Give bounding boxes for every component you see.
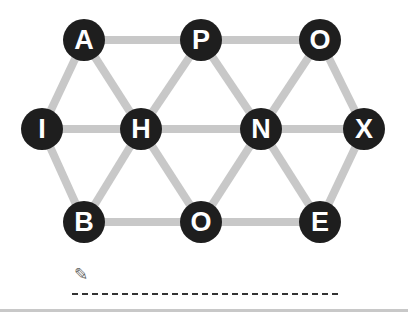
letter-node-o[interactable]: O <box>299 19 341 61</box>
letter-node-i[interactable]: I <box>21 108 63 150</box>
letter-node-b[interactable]: B <box>63 201 105 243</box>
letter-node-e[interactable]: E <box>299 201 341 243</box>
letter-node-o[interactable]: O <box>180 201 222 243</box>
letter-node-h[interactable]: H <box>120 108 162 150</box>
divider <box>0 309 408 312</box>
letter-node-n[interactable]: N <box>240 108 282 150</box>
letter-node-p[interactable]: P <box>180 19 222 61</box>
answer-input-line[interactable] <box>72 293 338 295</box>
letter-node-a[interactable]: A <box>63 19 105 61</box>
letter-node-x[interactable]: X <box>343 108 385 150</box>
pencil-icon: ✎ <box>74 264 88 285</box>
